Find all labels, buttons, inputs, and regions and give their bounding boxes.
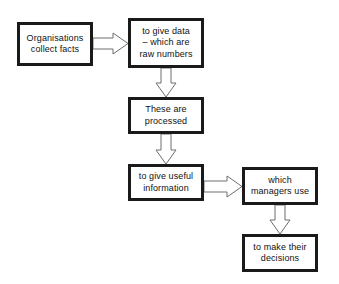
arrow-processed-to-useful-info <box>156 134 176 164</box>
arrow-managers-use-to-decisions <box>270 205 290 234</box>
node-processed-label: These are processed <box>143 104 189 127</box>
arrow-raw-data-to-processed <box>156 68 176 97</box>
node-decisions[interactable]: to make their decisions <box>242 234 318 272</box>
arrow-collect-facts-to-raw-data <box>93 33 128 54</box>
node-collect-facts-label: Organisations collect facts <box>25 33 86 56</box>
node-raw-data-label: to give data – which are raw numbers <box>137 26 194 61</box>
node-collect-facts[interactable]: Organisations collect facts <box>17 22 93 66</box>
node-processed[interactable]: These are processed <box>128 97 204 134</box>
node-managers-use[interactable]: which managers use <box>242 167 318 205</box>
node-decisions-label: to make their decisions <box>251 242 308 265</box>
arrow-useful-info-to-managers-use <box>204 176 242 197</box>
flowchart-canvas: Organisations collect facts to give data… <box>0 0 339 284</box>
node-useful-info[interactable]: to give useful information <box>128 164 204 201</box>
node-useful-info-label: to give useful information <box>137 171 195 194</box>
node-managers-use-label: which managers use <box>249 175 311 198</box>
node-raw-data[interactable]: to give data – which are raw numbers <box>128 18 204 68</box>
